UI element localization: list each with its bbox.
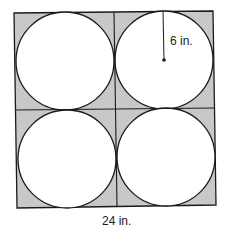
square-with-circles-figure [0, 0, 227, 234]
circle-top-left [16, 12, 114, 110]
diagram-canvas: 6 in. 24 in. [0, 0, 227, 234]
circle-bottom-left [18, 110, 116, 208]
side-length-label: 24 in. [102, 214, 131, 228]
center-dot [162, 58, 166, 62]
radius-label: 6 in. [170, 34, 193, 48]
circle-bottom-right [117, 108, 215, 206]
